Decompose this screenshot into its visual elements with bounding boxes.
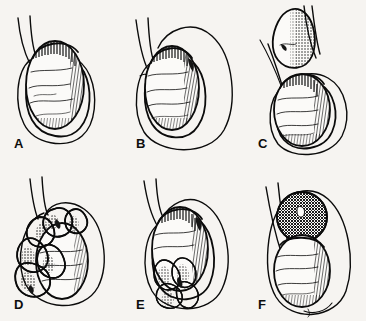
- illustration-plate: A: [0, 0, 366, 321]
- panel-label-a: A: [14, 137, 23, 150]
- panel-label-e: E: [136, 298, 145, 311]
- panel-label-d: D: [14, 298, 23, 311]
- panel-label-c: C: [258, 137, 267, 150]
- panel-label-b: B: [136, 137, 145, 150]
- panel-label-f: F: [258, 298, 266, 311]
